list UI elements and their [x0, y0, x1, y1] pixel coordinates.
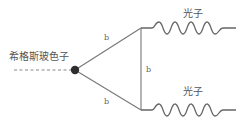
b-quark-label-vertical: b — [146, 66, 151, 74]
feynman-diagram-canvas — [0, 0, 252, 124]
photon-wave-upper — [141, 22, 236, 34]
interaction-vertex-dot — [71, 66, 79, 74]
higgs-boson-label: 希格斯玻色子 — [9, 52, 69, 62]
b-quark-label-lower: b — [104, 98, 109, 106]
photon-label-upper: 光子 — [183, 9, 203, 19]
photon-label-lower: 光子 — [183, 87, 203, 97]
b-quark-label-upper: b — [104, 34, 109, 42]
photon-wave-lower — [141, 104, 236, 116]
